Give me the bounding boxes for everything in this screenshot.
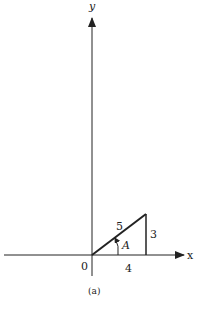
opposite-label: 3 bbox=[150, 228, 157, 241]
adjacent-label: 4 bbox=[125, 262, 132, 275]
caption: (a) bbox=[88, 286, 100, 296]
angle-label: A bbox=[121, 239, 130, 252]
origin-label: 0 bbox=[81, 260, 88, 273]
y-axis-label: y bbox=[88, 0, 96, 13]
x-axis-label: x bbox=[187, 249, 194, 262]
angle-arc-icon bbox=[115, 238, 118, 255]
right-triangle-diagram: y x 0 5 3 A 4 (a) bbox=[0, 0, 200, 309]
hypotenuse-label: 5 bbox=[116, 220, 123, 233]
